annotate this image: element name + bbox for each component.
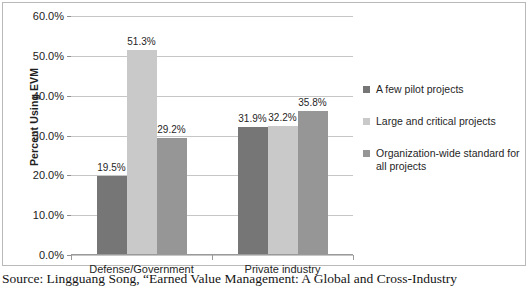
legend: A few pilot projectsLarge and critical p… xyxy=(363,83,529,192)
legend-item-label: Large and critical projects xyxy=(376,115,496,127)
y-tick-mark xyxy=(67,56,71,57)
category-separator-tick xyxy=(353,255,354,260)
bar-value-label: 29.2% xyxy=(149,125,195,135)
legend-item[interactable]: Large and critical projects xyxy=(363,115,529,128)
y-tick-mark xyxy=(67,175,71,176)
y-tick-mark xyxy=(67,16,71,17)
legend-swatch-icon xyxy=(363,150,370,157)
bar-value-label: 35.8% xyxy=(290,98,336,108)
legend-swatch-icon xyxy=(363,118,370,125)
bar xyxy=(238,127,268,254)
y-tick-label: 20.0% xyxy=(33,170,64,181)
bar xyxy=(97,176,127,254)
plot-area: 0.0%10.0%20.0%30.0%40.0%50.0%60.0% 19.5%… xyxy=(71,16,353,255)
y-tick-label: 30.0% xyxy=(33,130,64,141)
y-tick-label: 0.0% xyxy=(39,250,64,261)
y-tick-label: 40.0% xyxy=(33,90,64,101)
legend-item-label: Organization-wide standard for all proje… xyxy=(376,147,520,172)
y-tick-label: 50.0% xyxy=(33,50,64,61)
bar xyxy=(127,50,157,254)
legend-item-label: A few pilot projects xyxy=(376,83,464,95)
y-tick-mark xyxy=(67,96,71,97)
chart-frame: Percent Using EVM 0.0%10.0%20.0%30.0%40.… xyxy=(2,2,526,266)
y-tick-label: 10.0% xyxy=(33,210,64,221)
legend-item[interactable]: Organization-wide standard for all proje… xyxy=(363,147,529,173)
legend-item[interactable]: A few pilot projects xyxy=(363,83,529,96)
y-tick-label: 60.0% xyxy=(33,11,64,22)
y-tick-mark xyxy=(67,215,71,216)
category-separator-tick xyxy=(212,255,213,260)
gridline xyxy=(71,56,353,57)
gridline xyxy=(71,16,353,17)
legend-swatch-icon xyxy=(363,86,370,93)
bar xyxy=(157,138,187,254)
figure: Percent Using EVM 0.0%10.0%20.0%30.0%40.… xyxy=(0,0,530,292)
bar xyxy=(298,111,328,254)
source-caption: Source: Lingguang Song, “Earned Value Ma… xyxy=(2,270,528,288)
y-tick-mark xyxy=(67,136,71,137)
bar xyxy=(268,126,298,254)
bar-value-label: 51.3% xyxy=(119,37,165,47)
bar-value-label: 19.5% xyxy=(89,163,135,173)
category-separator-tick xyxy=(71,255,72,260)
bar-value-label: 32.2% xyxy=(260,113,306,123)
